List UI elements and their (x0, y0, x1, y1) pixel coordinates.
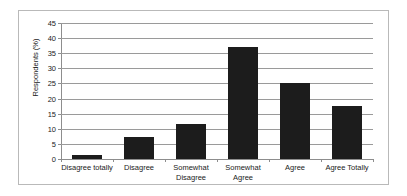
x-axis-tick (217, 159, 218, 162)
bar-slot (217, 23, 269, 159)
bar[interactable] (176, 124, 205, 159)
y-axis-tick-label: 45 (48, 19, 56, 28)
bar-series (61, 23, 373, 159)
x-axis-tick (269, 159, 270, 162)
x-axis-label-line: Agree (217, 173, 269, 183)
y-axis-tick-label: 40 (48, 34, 56, 43)
x-axis-label-line: Somewhat (217, 163, 269, 173)
x-axis-label: SomewhatDisagree (165, 163, 217, 182)
x-axis-label: Agree (269, 163, 321, 173)
y-axis-tick-label: 15 (48, 109, 56, 118)
x-axis-label: SomewhatAgree (217, 163, 269, 182)
x-axis-tick (373, 159, 374, 162)
y-axis-tick-label: 30 (48, 64, 56, 73)
x-axis-label-line: Disagree totally (61, 163, 113, 173)
x-axis-label-line: Somewhat (165, 163, 217, 173)
plot-area: 051015202530354045 (61, 23, 373, 159)
x-axis-line (61, 159, 373, 160)
y-axis-tick-label: 25 (48, 79, 56, 88)
bar-slot (165, 23, 217, 159)
x-axis-label: Disagree (113, 163, 165, 173)
bar[interactable] (332, 106, 361, 159)
y-axis-tick-label: 0 (52, 155, 56, 164)
bar[interactable] (280, 83, 309, 159)
x-axis-label-line: Agree Totally (321, 163, 373, 173)
y-axis-title: Respondents (%) (31, 8, 40, 128)
x-axis-tick (321, 159, 322, 162)
bar[interactable] (124, 137, 153, 159)
y-axis-tick-label: 35 (48, 49, 56, 58)
bar-slot (321, 23, 373, 159)
x-axis-label-line: Agree (269, 163, 321, 173)
bar-slot (61, 23, 113, 159)
x-axis-label: Disagree totally (61, 163, 113, 173)
x-axis-label-line: Disagree (165, 173, 217, 183)
x-axis-tick (61, 159, 62, 162)
bar-slot (113, 23, 165, 159)
y-axis-tick-label: 5 (52, 139, 56, 148)
x-axis-label-line: Disagree (113, 163, 165, 173)
bar[interactable] (228, 47, 257, 159)
y-axis-tick-label: 10 (48, 124, 56, 133)
bar-slot (269, 23, 321, 159)
y-axis-tick-label: 20 (48, 94, 56, 103)
chart-container: Respondents (%) 051015202530354045 Disag… (18, 10, 389, 185)
x-axis-label: Agree Totally (321, 163, 373, 173)
x-axis-tick (165, 159, 166, 162)
x-axis-tick (113, 159, 114, 162)
x-axis-labels: Disagree totallyDisagreeSomewhatDisagree… (61, 163, 373, 193)
